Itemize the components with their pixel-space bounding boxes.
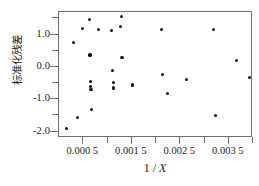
data-point: [89, 80, 92, 83]
data-point: [131, 83, 134, 86]
data-point: [161, 73, 164, 76]
x-axis-minor-tick: [155, 137, 156, 143]
data-point: [120, 15, 123, 18]
data-point: [110, 29, 113, 32]
data-point: [214, 114, 217, 117]
x-axis-title: 1 / X: [58, 162, 252, 175]
x-axis-major-tick: [82, 137, 83, 144]
plot-area: [58, 11, 252, 137]
data-point: [89, 88, 92, 91]
x-axis-minor-tick: [252, 137, 253, 143]
x-axis-minor-tick: [204, 137, 205, 143]
y-axis-tick-label: -2.0: [6, 126, 50, 136]
data-point: [212, 28, 215, 31]
x-axis-major-tick: [179, 137, 180, 144]
y-axis-major-tick: [50, 98, 58, 99]
data-point: [235, 59, 238, 62]
data-point: [160, 28, 163, 31]
x-axis-tick-label: 0.003 5: [197, 145, 259, 156]
data-point: [72, 41, 75, 44]
x-axis-title-variable: X: [159, 161, 166, 175]
data-point: [97, 28, 100, 31]
data-point: [81, 27, 84, 30]
x-axis-major-tick: [228, 137, 229, 144]
data-point: [88, 53, 91, 56]
data-point: [248, 76, 251, 79]
y-axis-title: 标准化残差: [12, 20, 23, 100]
x-axis-title-numerator: 1: [144, 161, 150, 175]
data-point: [120, 56, 123, 59]
y-axis-major-tick: [50, 131, 58, 132]
data-point: [166, 92, 169, 95]
y-axis-major-tick: [50, 66, 58, 67]
x-axis-minor-tick: [107, 137, 108, 143]
x-axis-major-tick: [131, 137, 132, 144]
data-point: [112, 81, 115, 84]
data-points-layer: [59, 12, 251, 136]
data-point: [88, 18, 91, 21]
data-point: [111, 69, 114, 72]
scatter-plot-figure: 1.00.0-1.0-2.0 0.000 50.001 50.002 50.00…: [0, 0, 259, 186]
data-point: [90, 108, 93, 111]
data-point: [185, 78, 188, 81]
data-point: [76, 116, 79, 119]
data-point: [119, 25, 122, 28]
data-point: [112, 86, 115, 89]
data-point: [65, 127, 68, 130]
y-axis-major-tick: [50, 34, 58, 35]
